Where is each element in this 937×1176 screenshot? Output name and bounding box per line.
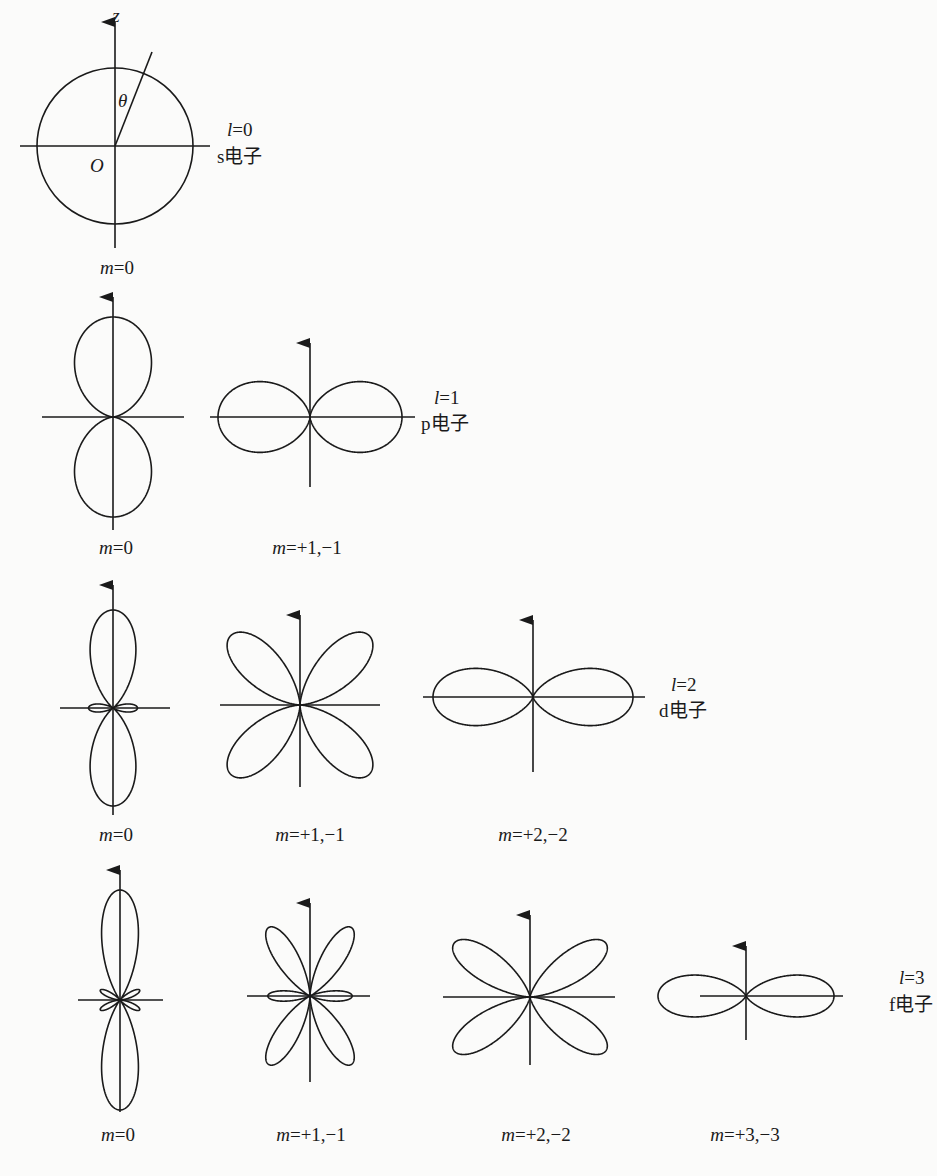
m-value: =+1,−1: [290, 1124, 346, 1145]
l-value: =1: [439, 387, 459, 408]
m-label: m=+1,−1: [276, 1125, 346, 1144]
l-value: =0: [232, 119, 252, 140]
m-label: m=+3,−3: [710, 1125, 780, 1144]
m-label: m=0: [99, 538, 133, 557]
electron-label-s: s电子: [217, 147, 262, 166]
m-value: =+2,−2: [512, 824, 568, 845]
l-label-d: l=2: [671, 675, 697, 694]
m-value: =+3,−3: [724, 1124, 780, 1145]
m-label: m=+2,−2: [498, 825, 568, 844]
orbital-diagram: [0, 0, 937, 1176]
m-label: m=+1,−1: [275, 825, 345, 844]
m-symbol: m: [276, 1124, 290, 1145]
m-symbol: m: [100, 257, 114, 278]
m-symbol: m: [275, 824, 289, 845]
m-label: m=+1,−1: [272, 538, 342, 557]
m-value: =+1,−1: [286, 537, 342, 558]
m-value: =0: [115, 1124, 135, 1145]
l-value: =3: [904, 967, 924, 988]
electron-label-f: f电子: [889, 995, 933, 1014]
m-value: =0: [113, 537, 133, 558]
m-symbol: m: [501, 1124, 515, 1145]
m-value: =0: [114, 257, 134, 278]
m-symbol: m: [101, 1124, 115, 1145]
l-value: =2: [676, 674, 696, 695]
m-value: =+1,−1: [289, 824, 345, 845]
l-label-f: l=3: [899, 968, 925, 987]
m-label: m=+2,−2: [501, 1125, 571, 1144]
electron-label-p: p电子: [421, 414, 469, 433]
m-label: m=0: [99, 825, 133, 844]
l-label-s: l=0: [227, 120, 253, 139]
m-value: =+2,−2: [515, 1124, 571, 1145]
l-label-p: l=1: [434, 388, 460, 407]
m-symbol: m: [498, 824, 512, 845]
m-label: m=0: [101, 1125, 135, 1144]
z-axis-label: z: [112, 6, 119, 25]
m-symbol: m: [710, 1124, 724, 1145]
m-label: m=0: [100, 258, 134, 277]
theta-label: θ: [118, 91, 127, 110]
m-symbol: m: [99, 824, 113, 845]
m-value: =0: [113, 824, 133, 845]
m-symbol: m: [99, 537, 113, 558]
m-symbol: m: [272, 537, 286, 558]
origin-label: O: [90, 156, 104, 175]
electron-label-d: d电子: [659, 701, 707, 720]
